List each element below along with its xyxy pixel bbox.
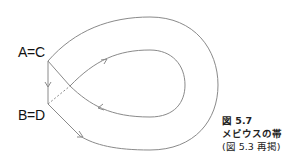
figure-caption: 図 5.7 メビウスの帯 (図 5.3 再掲) — [222, 114, 282, 153]
arrow-up-right-icon — [101, 59, 107, 64]
hidden-dashed-segment — [48, 86, 70, 104]
inner-edge-curve — [48, 50, 185, 117]
label-a-equals-c: A=C — [18, 44, 45, 60]
figure-title: メビウスの帯 — [222, 127, 282, 140]
label-b-equals-d: B=D — [18, 107, 45, 123]
figure-number: 図 5.7 — [222, 114, 282, 127]
outer-edge-curve — [48, 17, 218, 150]
figure-note: (図 5.3 再掲) — [222, 140, 282, 153]
